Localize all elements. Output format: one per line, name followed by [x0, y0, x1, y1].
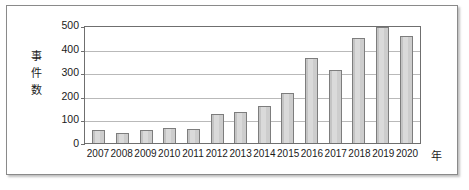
bar-slot: [87, 27, 111, 143]
bar-2008[interactable]: [116, 133, 129, 143]
bar-2011[interactable]: [187, 129, 200, 143]
bar-2015[interactable]: [281, 93, 294, 143]
bar-2012[interactable]: [211, 114, 224, 143]
bar-2017[interactable]: [329, 70, 342, 143]
x-tick-label-2015: 2015: [276, 148, 300, 159]
x-axis-title: 年: [431, 147, 442, 163]
y-axis-title-char-2: 件: [29, 65, 43, 82]
bar-slot: [182, 27, 206, 143]
bar-slot: [134, 27, 158, 143]
bar-chart: 事 件 数 500 400 300 200 100 0: [7, 6, 459, 176]
y-tick-label-300: 300: [47, 67, 79, 77]
x-tick-label-2010: 2010: [157, 148, 181, 159]
bars-container: [85, 27, 420, 143]
figure-frame: 事 件 数 500 400 300 200 100 0: [6, 5, 458, 175]
x-tick-label-2019: 2019: [371, 148, 395, 159]
y-axis-title: 事 件 数: [29, 48, 43, 99]
x-tick-label-2007: 2007: [86, 148, 110, 159]
y-tick-label-500: 500: [47, 20, 79, 30]
bar-slot: [323, 27, 347, 143]
bar-2020[interactable]: [400, 36, 413, 143]
x-axis-tick-labels: 2007200820092010201120122013201420152016…: [84, 148, 421, 159]
x-tick-label-2014: 2014: [252, 148, 276, 159]
y-axis-title-char-1: 事: [29, 48, 43, 65]
y-tick-label-400: 400: [47, 44, 79, 54]
bar-slot: [371, 27, 395, 143]
y-axis-tick-labels: 500 400 300 200 100 0: [47, 20, 79, 144]
y-tick-label-200: 200: [47, 91, 79, 101]
bar-2018[interactable]: [352, 38, 365, 143]
bar-2019[interactable]: [376, 27, 389, 143]
plot-area: [84, 26, 421, 144]
x-tick-label-2017: 2017: [324, 148, 348, 159]
x-tick-label-2012: 2012: [205, 148, 229, 159]
bar-2014[interactable]: [258, 106, 271, 143]
x-tick-label-2008: 2008: [110, 148, 134, 159]
bar-slot: [205, 27, 229, 143]
bar-slot: [158, 27, 182, 143]
x-tick-label-2018: 2018: [348, 148, 372, 159]
x-tick-label-2016: 2016: [300, 148, 324, 159]
bar-slot: [394, 27, 418, 143]
x-tick-label-2020: 2020: [395, 148, 419, 159]
x-tick-label-2011: 2011: [181, 148, 205, 159]
x-tick-label-2009: 2009: [134, 148, 158, 159]
bar-2013[interactable]: [234, 112, 247, 143]
y-tick-label-100: 100: [47, 114, 79, 124]
y-tick-mark-0: [81, 144, 85, 145]
x-tick-label-2013: 2013: [229, 148, 253, 159]
bar-2010[interactable]: [163, 128, 176, 143]
bar-slot: [276, 27, 300, 143]
bar-slot: [229, 27, 253, 143]
bar-slot: [111, 27, 135, 143]
bar-2007[interactable]: [92, 130, 105, 143]
bar-slot: [252, 27, 276, 143]
bar-slot: [347, 27, 371, 143]
bar-2016[interactable]: [305, 58, 318, 143]
bar-2009[interactable]: [140, 130, 153, 143]
y-tick-label-0: 0: [47, 138, 79, 148]
bar-slot: [300, 27, 324, 143]
y-axis-title-char-3: 数: [29, 82, 43, 99]
figure-caption: [0, 179, 469, 190]
